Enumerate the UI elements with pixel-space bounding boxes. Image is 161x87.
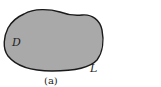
boundary-label: L — [89, 62, 97, 75]
region-diagram: D L (a) — [0, 0, 161, 87]
figure-caption: (a) — [44, 75, 58, 86]
region-label: D — [11, 36, 21, 49]
